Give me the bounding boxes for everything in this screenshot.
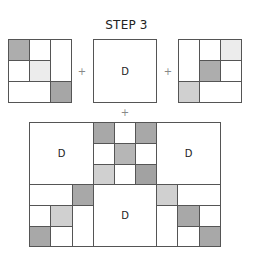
cell-white — [199, 205, 221, 227]
cell-light — [178, 81, 200, 103]
cell-dark — [135, 122, 157, 144]
cell-light — [50, 205, 73, 227]
cell-white — [50, 226, 73, 247]
cell-tall-white — [72, 205, 94, 247]
cell-white — [199, 39, 221, 61]
cell-white — [29, 39, 51, 61]
d-block-bottom-center: D — [93, 184, 157, 247]
cell-wide-white — [29, 184, 73, 206]
cell-very-light — [29, 60, 51, 82]
cell-dark — [135, 164, 157, 185]
d-label: D — [157, 123, 220, 184]
d-label: D — [94, 185, 156, 246]
d-block-top-right: D — [156, 122, 221, 185]
assembled-block: D D D — [29, 122, 221, 247]
cell-wide-white — [8, 81, 51, 103]
plus-sign: + — [77, 67, 87, 77]
step-title: STEP 3 — [0, 18, 253, 32]
cell-light — [156, 184, 178, 206]
cell-white — [93, 143, 115, 165]
cell-white — [114, 122, 136, 144]
cell-wide-white — [199, 81, 242, 103]
cell-white — [177, 226, 200, 247]
cell-tall-white — [156, 205, 178, 247]
cell-dark — [93, 122, 115, 144]
cell-dark — [50, 81, 72, 103]
d-block-top-left: D — [29, 122, 94, 185]
plus-sign: + — [163, 67, 173, 77]
left-pieced-block — [8, 39, 72, 103]
cell-white — [29, 205, 51, 227]
cell-white — [135, 143, 157, 165]
d-block: D — [93, 39, 157, 103]
cell-light — [93, 164, 115, 185]
cell-dark — [199, 226, 221, 247]
plus-sign: + — [120, 108, 130, 118]
right-pieced-block — [178, 39, 242, 103]
cell-wide-white — [177, 184, 221, 206]
cell-dark — [29, 226, 51, 247]
d-label: D — [30, 123, 93, 184]
cell-tall-white — [50, 39, 72, 82]
cell-white — [220, 60, 242, 82]
d-label: D — [94, 40, 156, 102]
cell-dark — [199, 60, 221, 82]
cell-dark — [72, 184, 94, 206]
cell-dark — [177, 205, 200, 227]
cell-dark — [8, 39, 30, 61]
cell-very-light — [220, 39, 242, 61]
cell-white — [114, 164, 136, 185]
cell-white — [8, 60, 30, 82]
cell-tall-white — [178, 39, 200, 82]
cell-medium — [114, 143, 136, 165]
